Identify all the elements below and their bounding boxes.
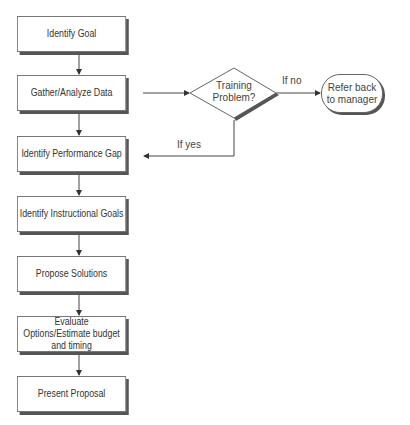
edge-label-yes: If yes	[177, 139, 201, 150]
step-gather-analyze-data: Gather/Analyze Data	[17, 75, 126, 111]
terminator-line-2: to manager	[327, 94, 378, 106]
terminator-line-1: Refer back	[327, 82, 378, 94]
step-identify-goal: Identify Goal	[17, 16, 126, 52]
step-propose-solutions: Propose Solutions	[17, 256, 126, 292]
step-label: Evaluate Options/Estimate budget and tim…	[21, 316, 121, 352]
step-evaluate-options: Evaluate Options/Estimate budget and tim…	[17, 316, 126, 352]
step-identify-performance-gap: Identify Performance Gap	[17, 136, 126, 172]
step-label: Gather/Analyze Data	[31, 87, 113, 99]
edge-label-no: If no	[282, 75, 301, 86]
step-label: Identify Performance Gap	[21, 148, 121, 160]
decision-label: Training Problem?	[200, 80, 268, 104]
step-label: Identify Instructional Goals	[20, 208, 124, 220]
step-label: Propose Solutions	[36, 268, 107, 280]
step-present-proposal: Present Proposal	[17, 376, 126, 412]
step-identify-instructional-goals: Identify Instructional Goals	[17, 196, 126, 232]
decision-line-1: Training	[200, 80, 268, 92]
terminator-refer-back: Refer back to manager	[321, 74, 383, 113]
step-label: Present Proposal	[38, 388, 106, 400]
decision-line-2: Problem?	[200, 92, 268, 104]
step-label: Identify Goal	[47, 28, 96, 40]
